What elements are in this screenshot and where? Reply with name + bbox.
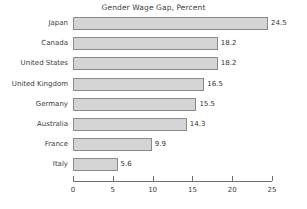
x-axis-tick-label: 0 — [61, 186, 85, 194]
bar-value-label: 9.9 — [152, 138, 166, 151]
x-axis-tick — [272, 176, 273, 181]
bar-track: 14.3 — [73, 118, 272, 131]
category-label: Canada — [0, 37, 68, 50]
bar-row: Germany15.5 — [0, 98, 307, 111]
category-label: United Kingdom — [0, 78, 68, 91]
x-axis-tick — [113, 176, 114, 181]
category-label: Japan — [0, 17, 68, 30]
bar[interactable] — [73, 17, 268, 30]
category-label: Germany — [0, 98, 68, 111]
plot-area: Japan24.5Canada18.2United States18.2Unit… — [0, 14, 307, 177]
bar-track: 5.6 — [73, 158, 272, 171]
x-axis-tick-label: 20 — [220, 186, 244, 194]
bar-value-label: 16.5 — [204, 78, 223, 91]
bar-row: Canada18.2 — [0, 37, 307, 50]
bar-value-label: 5.6 — [118, 158, 132, 171]
bar[interactable] — [73, 78, 204, 91]
bar[interactable] — [73, 118, 187, 131]
category-label: Italy — [0, 158, 68, 171]
x-axis-tick-label: 10 — [141, 186, 165, 194]
x-axis-tick-label: 5 — [101, 186, 125, 194]
bar-track: 18.2 — [73, 37, 272, 50]
bar[interactable] — [73, 57, 218, 70]
bar-row: Italy5.6 — [0, 158, 307, 171]
bar-row: Japan24.5 — [0, 17, 307, 30]
x-axis-tick — [73, 176, 74, 181]
bar-value-label: 18.2 — [218, 37, 237, 50]
bar-value-label: 15.5 — [196, 98, 215, 111]
bar[interactable] — [73, 37, 218, 50]
bar-track: 18.2 — [73, 57, 272, 70]
category-label: Australia — [0, 118, 68, 131]
x-axis-tick — [153, 176, 154, 181]
x-axis-tick — [192, 176, 193, 181]
bar-value-label: 24.5 — [268, 17, 287, 30]
bar[interactable] — [73, 158, 118, 171]
bar-track: 9.9 — [73, 138, 272, 151]
bar-value-label: 18.2 — [218, 57, 237, 70]
bar-track: 15.5 — [73, 98, 272, 111]
bar-track: 24.5 — [73, 17, 272, 30]
bar[interactable] — [73, 98, 196, 111]
bar-row: United Kingdom16.5 — [0, 78, 307, 91]
x-axis-line — [73, 181, 272, 182]
bar-value-label: 14.3 — [187, 118, 206, 131]
x-axis-tick — [232, 176, 233, 181]
bar-row: United States18.2 — [0, 57, 307, 70]
x-axis-tick-label: 15 — [180, 186, 204, 194]
category-label: United States — [0, 57, 68, 70]
chart-title: Gender Wage Gap, Percent — [0, 3, 307, 12]
bar-row: France9.9 — [0, 138, 307, 151]
bar-track: 16.5 — [73, 78, 272, 91]
bar-row: Australia14.3 — [0, 118, 307, 131]
bar-chart: Gender Wage Gap, Percent Japan24.5Canada… — [0, 0, 307, 209]
category-label: France — [0, 138, 68, 151]
bar[interactable] — [73, 138, 152, 151]
x-axis-tick-label: 25 — [260, 186, 284, 194]
